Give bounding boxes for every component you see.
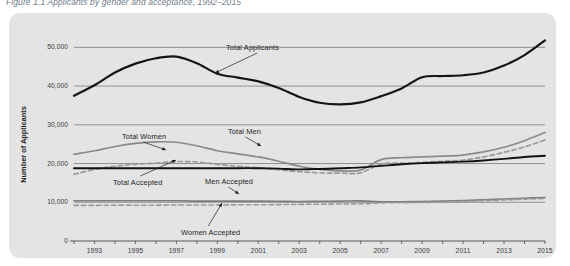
series-annotation: Women Accepted [181, 228, 240, 237]
x-tick-label: 2013 [484, 247, 524, 254]
y-tick-label: 30,000 [18, 121, 68, 128]
x-tick-label: 2001 [238, 247, 278, 254]
x-tick-label: 2011 [443, 247, 483, 254]
series-line [74, 40, 545, 104]
y-tick-label: 10,000 [18, 198, 68, 205]
x-tick-label: 2005 [320, 247, 360, 254]
x-tick-label: 1999 [197, 247, 237, 254]
series-annotation: Total Women [122, 132, 166, 141]
line-chart-plot [0, 0, 570, 266]
x-tick-label: 2003 [279, 247, 319, 254]
y-tick-label: 40,000 [18, 82, 68, 89]
x-tick-label: 1993 [74, 247, 114, 254]
x-tick-label: 2015 [525, 247, 565, 254]
y-tick-label: 20,000 [18, 160, 68, 167]
series-annotation: Total Accepted [113, 178, 162, 187]
y-tick-label: 50,000 [18, 43, 68, 50]
x-tick-label: 1997 [156, 247, 196, 254]
figure-root: Figure 1.1 Applicants by gender and acce… [0, 0, 570, 266]
series-annotation: Total Men [228, 127, 261, 136]
x-tick-label: 2009 [402, 247, 442, 254]
series-annotation: Men Accepted [205, 177, 253, 186]
x-tick-label: 1995 [115, 247, 155, 254]
x-tick-label: 2007 [361, 247, 401, 254]
series-annotation: Total Applicants [226, 43, 279, 52]
y-tick-label: 0 [18, 237, 68, 244]
